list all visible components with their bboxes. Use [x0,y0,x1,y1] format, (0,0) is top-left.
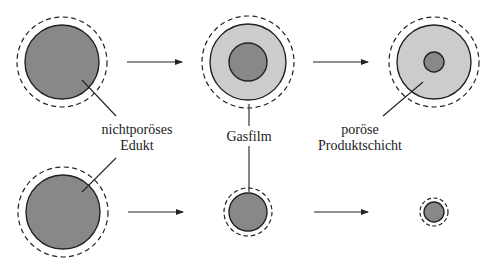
row-shrinking-particle [18,167,448,257]
label-gasfilm: Gasfilm [226,129,271,144]
particle-stage-2-top [202,16,294,108]
label-product-line2: Produktschicht [318,138,402,153]
label-edukt-line1: nichtporöses [102,122,173,137]
row-shrinking-core [17,16,479,108]
leader-edukt-top [82,80,116,116]
particle-stage-1-top [17,17,107,107]
unreacted-core [424,52,444,72]
leader-edukt-bottom [82,158,116,192]
unreacted-core [229,43,267,81]
label-product-line1: poröse [341,122,378,137]
shrinking-core [424,202,444,222]
particle-stage-1-bottom [18,167,108,257]
particle-stage-3-top [389,17,479,107]
particle-stage-2-bottom [224,188,272,236]
reaction-model-diagram: nichtporöses Edukt Gasfilm poröse Produk… [0,0,494,267]
shrinking-core [229,193,267,231]
particle-stage-3-bottom [420,198,448,226]
label-edukt-line2: Edukt [120,138,154,153]
nonporous-reactant-core [25,25,99,99]
leader-product-layer [383,82,423,116]
nonporous-reactant-core [26,175,100,249]
